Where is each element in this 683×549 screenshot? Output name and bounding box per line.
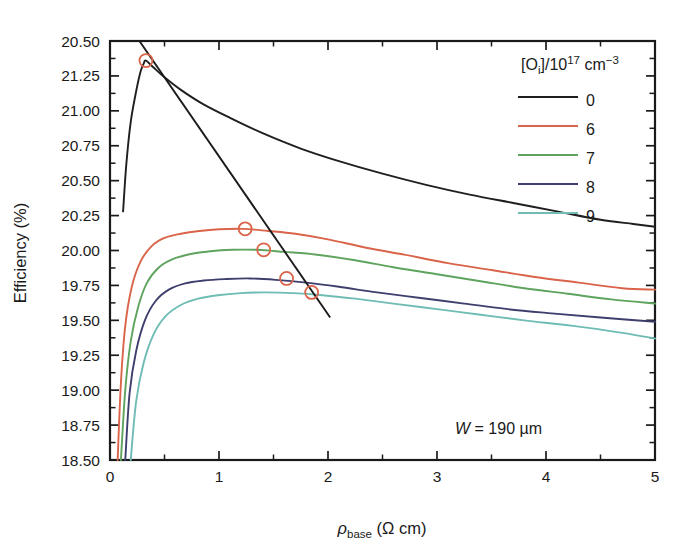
- x-axis-label-subscript: base: [347, 528, 372, 540]
- legend-label-6: 6: [586, 121, 595, 138]
- y-tick-label: 20.25: [61, 207, 100, 224]
- y-tick-label: 19.75: [61, 277, 100, 294]
- figure-background: [0, 0, 683, 549]
- y-tick-label: 20.00: [61, 242, 100, 259]
- x-tick-label: 2: [324, 468, 333, 485]
- y-tick-label: 21.25: [61, 67, 100, 84]
- figure-container: 20.5021.2521.0020.7520.5020.2520.0019.75…: [0, 0, 683, 549]
- x-tick-label: 5: [651, 468, 660, 485]
- x-tick-label: 4: [542, 468, 551, 485]
- y-axis-label: Efficiency (%): [11, 203, 29, 304]
- y-tick-label: 21.00: [61, 102, 100, 119]
- y-tick-label: 20.50: [61, 172, 100, 189]
- y-tick-label: 19.25: [61, 347, 100, 364]
- legend-label-8: 8: [586, 179, 595, 196]
- annotation-wafer-thickness: W = 190 µm: [455, 420, 542, 437]
- y-tick-label: 18.50: [61, 452, 100, 469]
- y-tick-label: 20.50: [61, 33, 100, 50]
- legend-label-9: 9: [586, 208, 595, 225]
- y-tick-label: 19.00: [61, 382, 100, 399]
- efficiency-vs-resistivity-chart: 20.5021.2521.0020.7520.5020.2520.0019.75…: [0, 0, 683, 549]
- x-tick-label: 1: [215, 468, 224, 485]
- x-axis-label-symbol: ρ: [337, 519, 347, 537]
- y-tick-label: 18.75: [61, 417, 100, 434]
- y-tick-label: 19.50: [61, 312, 100, 329]
- y-tick-label: 20.75: [61, 137, 100, 154]
- legend-label-7: 7: [586, 150, 595, 167]
- x-axis-label-unit: (Ω cm): [372, 519, 427, 537]
- legend-label-0: 0: [586, 92, 595, 109]
- x-tick-label: 3: [433, 468, 442, 485]
- x-tick-label: 0: [106, 468, 115, 485]
